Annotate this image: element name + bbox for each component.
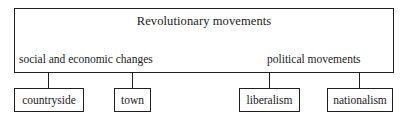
node-box-nationalism: nationalism (327, 88, 393, 112)
connector-line-nationalism (359, 73, 360, 88)
node-box-liberalism: liberalism (239, 88, 300, 112)
diagram-title: Revolutionary movements (15, 14, 393, 29)
connector-line-liberalism (269, 73, 270, 88)
revolutionary-movements-box: Revolutionary movements social and econo… (14, 8, 394, 73)
branch-label-social-and-economic-changes: social and economic changes (19, 52, 153, 66)
branch-label-political-movements: political movements (267, 52, 361, 66)
connector-line-countryside (48, 73, 49, 88)
connector-line-town (132, 73, 133, 88)
diagram-canvas: Revolutionary movements social and econo… (0, 0, 409, 135)
node-box-countryside: countryside (14, 88, 84, 112)
node-box-town: town (114, 88, 151, 112)
